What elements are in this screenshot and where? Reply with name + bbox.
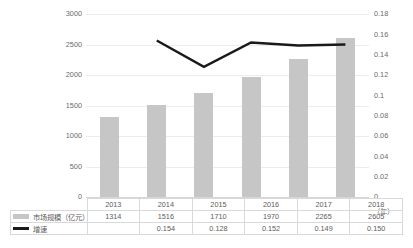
table-data-cell: 0.149 [297,223,350,235]
table-row: 市场规模（亿元）131415161710197022652605 [11,211,403,223]
table-header-cell: 2018 [350,199,403,211]
data-table: 201320142015201620172018市场规模（亿元）13141516… [10,198,403,235]
table-data-cell [87,223,140,235]
right-axis-tick-label: 0.04 [374,153,388,160]
legend-label: 增速 [33,224,47,234]
table-header-cell: 2014 [140,199,193,211]
table-header-row: 201320142015201620172018 [11,199,403,211]
legend-label: 市场规模（亿元） [33,212,89,222]
table-row: 增速 0.1540.1280.1520.1490.150 [11,223,403,235]
line-series [86,14,369,197]
right-axis-tick-label: 0.14 [374,51,388,58]
right-axis-tick-label: 0.16 [374,31,388,38]
table-data-cell: 0.150 [350,223,403,235]
table-data-cell: 0.152 [245,223,298,235]
table-data-cell: 0.154 [140,223,193,235]
table-data-cell: 0.128 [192,223,245,235]
legend-entry[interactable]: 增速 [11,223,88,235]
table-data-cell: 1314 [87,211,140,223]
legend-line-swatch-icon [13,227,29,230]
right-axis-tick-label: 0.12 [374,71,388,78]
table-data-cell: 1516 [140,211,193,223]
data-table-region: 201320142015201620172018市场规模（亿元）13141516… [10,198,403,235]
table-header-cell: 2013 [87,199,140,211]
table-data-cell: 1970 [245,211,298,223]
table-header-cell: 2015 [192,199,245,211]
growth-rate-line [157,40,346,66]
table-data-cell: 2605 [350,211,403,223]
left-axis-tick-label: 500 [70,163,82,170]
left-axis-tick-label: 1500 [66,102,82,109]
right-axis-tick-label: 0.1 [374,92,384,99]
table-corner-cell [11,199,88,211]
legend-bar-swatch-icon [13,214,29,219]
right-axis-tick-label: 0.18 [374,10,388,17]
table-header-cell: 2016 [245,199,298,211]
right-axis-tick-label: 0.08 [374,112,388,119]
plot-region: 050010001500200025003000 00.020.040.060.… [0,0,413,200]
left-axis-tick-label: 2500 [66,41,82,48]
left-axis-tick-label: 3000 [66,10,82,17]
left-axis-tick-label: 2000 [66,71,82,78]
legend-entry[interactable]: 市场规模（亿元） [11,211,88,223]
plot-area: 050010001500200025003000 00.020.040.060.… [86,14,369,197]
table-data-cell: 2265 [297,211,350,223]
right-axis-tick-label: 0.06 [374,132,388,139]
table-header-cell: 2017 [297,199,350,211]
combo-chart: 050010001500200025003000 00.020.040.060.… [0,0,413,248]
right-axis-tick-label: 0.02 [374,173,388,180]
table-data-cell: 1710 [192,211,245,223]
left-axis-tick-label: 1000 [66,132,82,139]
